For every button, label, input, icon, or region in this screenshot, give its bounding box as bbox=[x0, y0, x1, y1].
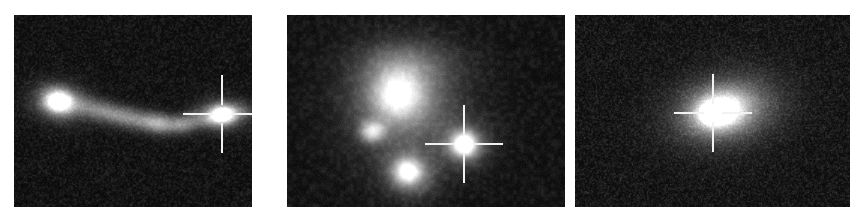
cutout-panel-3 bbox=[575, 15, 850, 207]
cutout-panel-1 bbox=[14, 15, 252, 207]
sky-image-panel-3 bbox=[575, 15, 850, 207]
sky-image-panel-2 bbox=[287, 15, 565, 207]
sky-image-panel-1 bbox=[14, 15, 252, 207]
figure-canvas bbox=[0, 0, 859, 216]
cutout-panel-2 bbox=[287, 15, 565, 207]
